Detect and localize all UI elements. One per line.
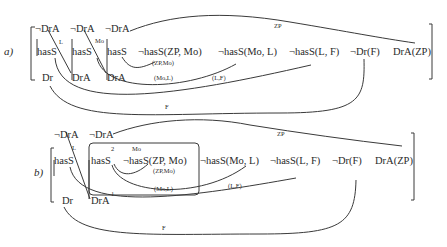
edge-label-zp: ZP [274, 23, 282, 30]
edge-label-zp: ZP [277, 131, 285, 138]
edge-label-mo: Mo [95, 38, 104, 45]
node-not-hass-l-f: ¬hasS(L, F) [289, 47, 339, 58]
edge-label-f: F [162, 225, 166, 232]
edge-label-mo-l: (Mo,L) [154, 75, 173, 82]
node-not-dra: ¬DrA [54, 130, 79, 141]
left-bracket-a [31, 27, 35, 80]
node-not-hass-l-f: ¬hasS(L, F) [270, 156, 320, 167]
edge-label-l: L [59, 39, 63, 46]
connection-lines [0, 0, 447, 247]
node-dra: DrA [91, 196, 110, 207]
edge-label-zp-mo: (ZP,Mo) [153, 168, 175, 175]
edge-label-l-f: (L,F) [212, 75, 226, 82]
panel-a-label: a) [4, 45, 13, 57]
node-not-hass-zp-mo: ¬hasS(ZP, Mo) [123, 156, 187, 167]
node-not-dra: ¬DrA [35, 24, 60, 35]
node-not-dra: ¬DrA [70, 24, 95, 35]
node-dra: DrA [72, 73, 91, 84]
node-dr: Dr [42, 73, 53, 84]
node-not-dra: ¬DrA [105, 24, 130, 35]
node-hass: hasS [37, 47, 57, 58]
node-hass: hasS [107, 47, 127, 58]
node-dra-zp: DrA(ZP) [375, 156, 413, 167]
node-not-hass-zp-mo: ¬hasS(ZP, Mo) [138, 47, 202, 58]
panel-b-label: b) [34, 166, 43, 178]
edge-label-f: F [165, 104, 169, 111]
node-not-hass-mo-l: ¬hasS(Mo, L) [200, 156, 259, 167]
edge-label-l: L [72, 145, 76, 152]
edge-label-l-f: (L,F) [228, 183, 242, 190]
node-dr: Dr [62, 196, 73, 207]
node-dra-zp: DrA(ZP) [393, 47, 431, 58]
node-not-dr-f: ¬Dr(F) [350, 47, 380, 58]
edge-label-zp-mo: (ZP,Mo) [152, 60, 174, 67]
node-not-dra: ¬DrA [89, 130, 114, 141]
box-marker-2: 2 [111, 146, 114, 153]
box-marker-1: 1 [111, 191, 114, 198]
node-hass: hasS [91, 156, 111, 167]
node-hass: hasS [72, 47, 92, 58]
node-hass: hasS [54, 156, 74, 167]
node-not-dr-f: ¬Dr(F) [332, 156, 362, 167]
node-not-hass-mo-l: ¬hasS(Mo, L) [218, 47, 277, 58]
edge-label-mo-l: (Mo,L) [154, 186, 173, 193]
node-dra: DrA [107, 73, 126, 84]
edge-label-mo: Mo [132, 146, 141, 153]
